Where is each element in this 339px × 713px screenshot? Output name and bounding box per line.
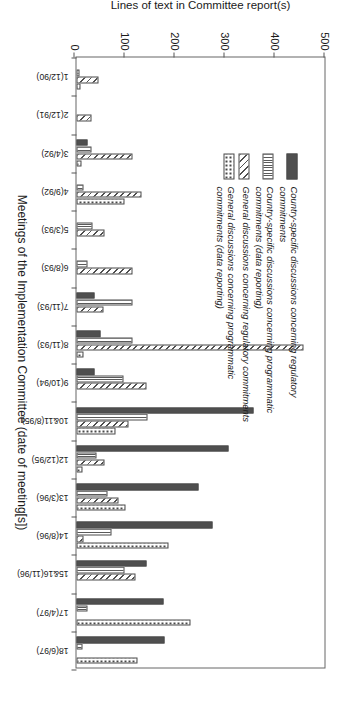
bar (76, 382, 146, 388)
bar (76, 76, 99, 82)
legend-swatch-general-programmatic-icon (223, 153, 234, 179)
y-tick-mark (273, 52, 274, 57)
x-tick-mark (71, 363, 76, 364)
y-tick-mark (173, 52, 174, 57)
bar (76, 528, 111, 534)
rotated-figure-stage: Lines of text in Committee report(s) 010… (0, 0, 339, 713)
x-tick-mark (71, 172, 76, 173)
x-tick-mark (71, 631, 76, 632)
x-tick-label: 8(11/93) (37, 339, 68, 348)
y-tick-mark (323, 52, 324, 57)
bar (76, 605, 88, 611)
bar-chart-figure: Lines of text in Committee report(s) 010… (0, 0, 339, 713)
bar (76, 452, 96, 458)
x-tick-mark (71, 134, 76, 135)
x-tick-label: 7(11/93) (37, 301, 68, 310)
plot-area: 0100200300400500 1(12/90)2(12/91)3(4/92)… (75, 56, 325, 668)
bar (76, 146, 91, 152)
bar (76, 330, 100, 336)
bar (76, 619, 190, 625)
bar (76, 420, 128, 426)
x-tick-mark (71, 554, 76, 555)
y-tick-mark (223, 52, 224, 57)
chart-legend: Country-specific discussions concerning … (213, 153, 298, 436)
bar (76, 306, 103, 312)
bar (76, 413, 148, 419)
x-tick-mark (71, 95, 76, 96)
legend-item: Country-specific discussions concerning … (253, 153, 274, 436)
bar (76, 83, 80, 89)
bar (76, 560, 146, 566)
bar (76, 337, 133, 343)
x-tick-mark (71, 248, 76, 249)
y-tick-mark (123, 52, 124, 57)
x-tick-mark (71, 57, 76, 58)
y-tick-mark (73, 52, 74, 57)
bar (76, 139, 87, 145)
legend-swatch-country-regulatory-icon (286, 153, 297, 179)
x-tick-label: 3(4/92) (41, 148, 68, 157)
x-tick-mark (71, 325, 76, 326)
legend-item: General discussions concerning programma… (213, 153, 234, 436)
bar (76, 521, 212, 527)
x-tick-label: 6(8/93) (41, 263, 68, 272)
legend-item: General discussions concerning regulator… (238, 153, 250, 436)
bar (76, 292, 94, 298)
bar (76, 222, 93, 228)
bar (76, 643, 82, 649)
bar (76, 191, 141, 197)
bar (76, 299, 132, 305)
x-axis-title: Meetings of the Implementation Committee… (14, 194, 28, 530)
y-tick-label: 400 (269, 32, 280, 50)
x-tick-label: 2(12/91) (36, 110, 68, 119)
y-tick-label: 200 (169, 32, 180, 50)
x-tick-label: 1(12/90) (36, 72, 68, 81)
y-tick-label: 300 (219, 32, 230, 50)
bar (76, 267, 132, 273)
bar (76, 427, 115, 433)
bar (76, 184, 83, 190)
x-tick-label: 5(3/93) (41, 225, 68, 234)
x-tick-label: 9(10/94) (36, 378, 68, 387)
legend-swatch-country-programmatic-icon (262, 153, 273, 179)
x-tick-label: 14(8/96) (36, 531, 68, 540)
x-tick-label: 17(4/97) (36, 607, 68, 616)
bar (76, 573, 135, 579)
y-tick-label: 100 (119, 32, 130, 50)
bar (76, 497, 118, 503)
x-tick-mark (71, 401, 76, 402)
x-tick-label: 15&16(11/96) (17, 569, 68, 578)
x-tick-mark (71, 287, 76, 288)
legend-label: General discussions concerning programma… (213, 186, 234, 436)
x-tick-mark (71, 210, 76, 211)
bar (76, 351, 83, 357)
y-tick-label: 500 (319, 32, 330, 50)
y-tick-label: 0 (69, 44, 80, 50)
legend-label: Country-specific discussions concerning … (277, 186, 298, 436)
x-tick-label: 12(12/95) (31, 454, 68, 463)
bar (76, 153, 133, 159)
y-axis-title: Lines of text in Committee report(s) (110, 0, 290, 10)
bar (76, 375, 124, 381)
bar (76, 542, 169, 548)
bar (76, 636, 164, 642)
x-tick-mark (71, 516, 76, 517)
x-tick-mark (71, 478, 76, 479)
bar (76, 490, 107, 496)
x-tick-mark (71, 669, 76, 670)
bar (76, 114, 91, 120)
x-tick-mark (71, 440, 76, 441)
legend-swatch-general-regulatory-icon (238, 153, 249, 179)
legend-label: General discussions concerning regulator… (239, 186, 250, 422)
bar (76, 229, 104, 235)
bar (76, 445, 229, 451)
bar (76, 160, 81, 166)
bar (76, 459, 104, 465)
bar (76, 483, 199, 489)
bar (76, 69, 80, 75)
bar (76, 368, 95, 374)
bar (76, 466, 82, 472)
bar (76, 657, 137, 663)
x-tick-label: 13(3/96) (36, 492, 68, 501)
bar (76, 598, 163, 604)
